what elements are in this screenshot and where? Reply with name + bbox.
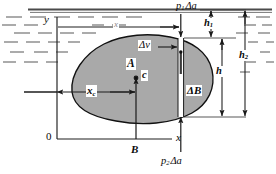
- water-hatching-right: [236, 17, 274, 72]
- element-buoyancy-label: ΔB: [186, 85, 202, 96]
- p2-area: Δa: [170, 155, 181, 166]
- dimension-x-label: x: [113, 20, 119, 29]
- element-volume-label: Δv: [138, 40, 151, 51]
- body-area-label: A: [126, 58, 136, 70]
- centroid-label: c: [141, 70, 148, 81]
- xc-subscript: c: [93, 90, 96, 97]
- element-strip: [178, 38, 184, 117]
- dimension-h1-label: h1: [203, 18, 214, 29]
- axis-y-label: y: [44, 14, 49, 25]
- dimension-h2-label: h2: [238, 50, 249, 61]
- p1-subscript: 1: [181, 4, 184, 11]
- h2-subscript: 2: [245, 53, 248, 60]
- axis-x-label: x: [176, 132, 181, 143]
- force-p1-label: p1 Δa: [176, 1, 197, 12]
- p1-area: Δa: [185, 0, 196, 11]
- p2-subscript: 2: [166, 159, 169, 166]
- origin-label: 0: [46, 131, 52, 142]
- figure-canvas: y x 0 x p1 Δa p2 Δa h1 h h2 Δv A c xc ΔB…: [0, 0, 276, 174]
- dimension-xc-label: xc: [86, 85, 97, 97]
- force-p2-label: p2 Δa: [161, 156, 182, 167]
- h1-subscript: 1: [210, 21, 213, 28]
- dimension-h-label: h: [215, 66, 223, 77]
- buoyant-force-label: B: [131, 144, 138, 155]
